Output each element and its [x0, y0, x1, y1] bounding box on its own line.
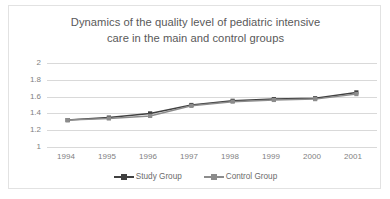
x-axis-tick-1997: 1997	[166, 152, 212, 161]
legend-item-study-group[interactable]: Study Group	[114, 172, 182, 181]
x-axis-tick-1998: 1998	[207, 152, 253, 161]
y-axis-tick-2: 2	[11, 58, 41, 67]
series-lines	[47, 63, 377, 147]
plot-wrapper: 2 1.8 1.6 1.4 1.2 1 1994 1995 1996 1997 …	[9, 6, 382, 190]
plot-area	[47, 63, 377, 147]
y-axis-tick-1-8: 1.8	[11, 75, 41, 84]
x-axis-tick-2001: 2001	[330, 152, 376, 161]
data-point	[107, 116, 111, 120]
data-point	[354, 92, 358, 96]
y-axis-tick-1-4: 1.4	[11, 108, 41, 117]
gridline-1	[47, 147, 377, 148]
x-axis-tick-1996: 1996	[125, 152, 171, 161]
data-point	[189, 104, 193, 108]
legend-label-study-group: Study Group	[136, 172, 182, 181]
data-point	[231, 100, 235, 104]
x-axis-tick-2000: 2000	[289, 152, 335, 161]
legend-swatch-study-group	[114, 172, 134, 181]
y-axis-tick-1: 1	[11, 142, 41, 151]
chart-card: Dynamics of the quality level of pediatr…	[8, 5, 381, 189]
data-point	[272, 98, 276, 102]
legend-swatch-control-group	[204, 172, 224, 181]
y-axis-tick-1-6: 1.6	[11, 92, 41, 101]
legend-item-control-group[interactable]: Control Group	[204, 172, 277, 181]
x-axis-tick-1999: 1999	[248, 152, 294, 161]
chart-legend: Study Group Control Group	[9, 172, 382, 181]
x-axis-tick-1994: 1994	[43, 152, 89, 161]
data-point	[148, 114, 152, 118]
legend-label-control-group: Control Group	[226, 172, 277, 181]
x-axis-tick-1995: 1995	[84, 152, 130, 161]
data-point	[313, 97, 317, 101]
y-axis-tick-1-2: 1.2	[11, 125, 41, 134]
data-point	[66, 118, 70, 122]
